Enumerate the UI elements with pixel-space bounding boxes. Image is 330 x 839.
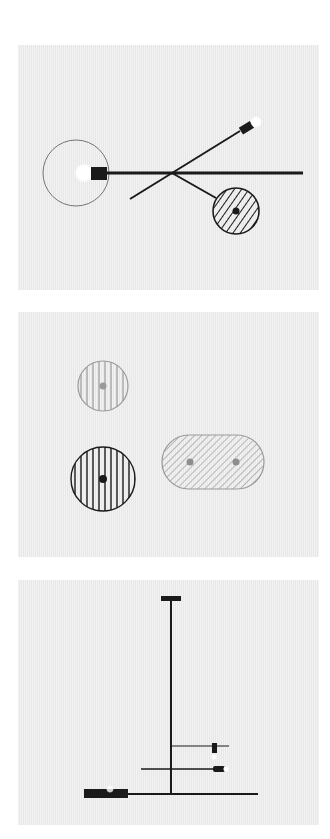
- gray-dot: [100, 383, 107, 390]
- upper-block: [212, 743, 217, 753]
- diagonal-beam: [130, 131, 240, 199]
- panel-1-figure: [43, 116, 303, 234]
- gray-hatched-stadium: [162, 435, 264, 489]
- base-bar: [84, 789, 128, 798]
- glow-spot: [250, 116, 262, 128]
- panel-3-figure: [84, 596, 258, 798]
- gray-dot: [187, 459, 194, 466]
- panel-2-figure: [71, 361, 264, 511]
- black-dot: [99, 475, 107, 483]
- glow-spot: [223, 766, 229, 772]
- diagram-canvas: [0, 0, 330, 839]
- branch-beam: [172, 173, 216, 198]
- top-cap: [161, 596, 181, 601]
- glow-spot: [106, 785, 114, 793]
- gray-dot: [233, 459, 240, 466]
- center-dot: [233, 208, 240, 215]
- glow-spot: [211, 754, 217, 760]
- emitter-block: [91, 167, 107, 180]
